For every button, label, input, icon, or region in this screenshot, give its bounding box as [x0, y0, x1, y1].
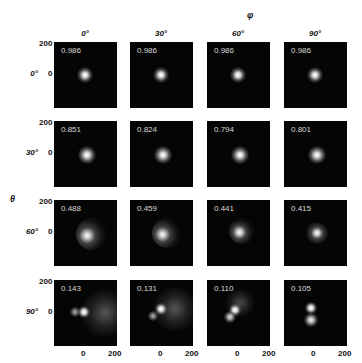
panel-value: 0.986 — [137, 46, 157, 55]
phi-axis-title: φ — [247, 10, 253, 20]
panel-theta90-phi0: 0.143 — [54, 280, 117, 346]
panel-theta30-phi90: 0.801 — [284, 121, 347, 187]
intensity-spot — [153, 67, 169, 83]
y-tick-200: 200 — [39, 197, 52, 206]
intensity-spot — [224, 311, 236, 323]
panel-theta90-phi90: 0.105 — [284, 280, 347, 346]
panel-value: 0.851 — [61, 125, 81, 134]
x-tick-200: 200 — [185, 349, 198, 358]
y-tick-0: 0 — [48, 148, 52, 157]
intensity-spot — [307, 67, 323, 83]
theta-axis-title: θ — [10, 194, 15, 204]
panel-value: 0.794 — [214, 125, 234, 134]
column-label-30: 30° — [130, 29, 192, 38]
panel-theta30-phi0: 0.851 — [54, 121, 117, 187]
x-tick-200: 200 — [262, 349, 275, 358]
row-label-60: 60° — [12, 227, 38, 236]
intensity-spot — [231, 146, 249, 164]
intensity-spot — [308, 146, 326, 164]
intensity-spot — [229, 218, 255, 244]
panel-theta0-phi0: 0.986 — [54, 42, 117, 108]
panel-value: 0.441 — [214, 204, 234, 213]
y-tick-0: 0 — [48, 307, 52, 316]
intensity-spot — [154, 146, 172, 164]
intensity-spot — [76, 218, 108, 250]
panel-value: 0.488 — [61, 204, 81, 213]
row-label-30: 30° — [12, 148, 38, 157]
panel-theta30-phi30: 0.824 — [130, 121, 193, 187]
panel-value: 0.986 — [291, 46, 311, 55]
panel-value: 0.801 — [291, 125, 311, 134]
y-tick-200: 200 — [39, 277, 52, 286]
y-tick-0: 0 — [48, 69, 52, 78]
panel-value: 0.131 — [137, 284, 157, 293]
panel-theta30-phi60: 0.794 — [207, 121, 270, 187]
panel-theta60-phi0: 0.488 — [54, 200, 117, 266]
x-tick-0: 0 — [235, 349, 239, 358]
x-tick-0: 0 — [81, 349, 85, 358]
panel-value: 0.105 — [291, 284, 311, 293]
column-label-0: 0° — [54, 29, 116, 38]
intensity-spot — [304, 313, 318, 327]
panel-theta90-phi30: 0.131 — [130, 280, 193, 346]
x-tick-200: 200 — [338, 349, 351, 358]
column-label-90: 90° — [284, 29, 346, 38]
panel-theta60-phi60: 0.441 — [207, 200, 270, 266]
intensity-spot — [306, 222, 328, 244]
panel-theta0-phi90: 0.986 — [284, 42, 347, 108]
x-tick-0: 0 — [311, 349, 315, 358]
panel-theta90-phi60: 0.110 — [207, 280, 270, 346]
y-tick-0: 0 — [48, 227, 52, 236]
y-tick-200: 200 — [39, 39, 52, 48]
panel-value: 0.824 — [137, 125, 157, 134]
row-label-90: 90° — [12, 307, 38, 316]
panel-value: 0.415 — [291, 204, 311, 213]
panel-value: 0.986 — [61, 46, 81, 55]
intensity-spot — [78, 306, 90, 318]
column-label-60: 60° — [207, 29, 269, 38]
intensity-spot — [230, 67, 246, 83]
panel-value: 0.143 — [61, 284, 81, 293]
panel-theta60-phi30: 0.459 — [130, 200, 193, 266]
y-tick-200: 200 — [39, 118, 52, 127]
panel-value: 0.459 — [137, 204, 157, 213]
intensity-spot — [78, 146, 96, 164]
panel-theta0-phi30: 0.986 — [130, 42, 193, 108]
x-tick-200: 200 — [108, 349, 121, 358]
intensity-spot — [155, 303, 167, 315]
panel-theta0-phi60: 0.986 — [207, 42, 270, 108]
intensity-spot — [152, 218, 182, 248]
row-label-0: 0° — [12, 69, 38, 78]
intensity-spot — [77, 67, 93, 83]
panel-value: 0.986 — [214, 46, 234, 55]
x-tick-0: 0 — [158, 349, 162, 358]
panel-theta60-phi90: 0.415 — [284, 200, 347, 266]
